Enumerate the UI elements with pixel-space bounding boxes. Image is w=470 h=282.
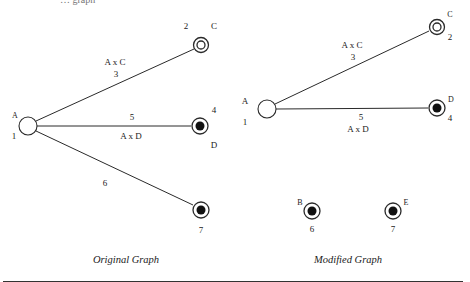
edge-a-d-modified-weight: 5 [359,112,364,122]
node-d-modified-number: 4 [448,113,453,123]
node-d-modified-label: D [448,95,454,105]
edge-a-d-original-weight: 5 [130,112,135,122]
edge-a-d-modified-label: A x D [347,124,369,134]
node-a-original-label: A [12,111,18,121]
node-b-modified [304,203,320,219]
node-d-modified [429,100,445,116]
edge-a-c-modified-weight: 3 [351,52,356,62]
original-graph-caption: Original Graph [93,254,159,265]
edge-a-c-original-label: A x C [104,57,125,67]
node-a-original [19,117,37,135]
node-a-modified-number: 1 [243,117,248,127]
node-c-modified [430,20,445,35]
node-7-original [193,202,209,218]
node-e-modified [385,203,401,219]
node-a-modified [258,100,276,118]
node-c-original-label: C [211,21,217,31]
edge-a-7-original-weight: 6 [103,178,108,188]
edge-a-d-modified [276,108,428,109]
edge-a-d-original-label: A x D [120,131,142,141]
node-c-modified-number: 2 [448,32,453,42]
node-e-modified-number: 7 [391,224,396,234]
node-7-original-number: 7 [199,225,204,235]
node-c-original [194,38,209,53]
node-b-modified-label: B [297,198,302,208]
node-e-modified-label: E [404,198,409,208]
edge-a-c-modified-label: A x C [341,40,362,50]
edge-a-7-original [36,131,193,205]
edge-a-c-original-weight: 3 [114,69,119,79]
graph-canvas [0,0,470,282]
node-c-modified-label: C [447,10,452,20]
node-d-original-number: 4 [212,105,217,115]
modified-graph-caption: Modified Graph [314,254,382,265]
graph-figure: … graph [0,0,470,282]
node-d-original [192,118,208,134]
node-b-modified-number: 6 [310,224,315,234]
node-c-original-number: 2 [184,21,189,31]
node-a-modified-label: A [242,96,249,106]
node-a-original-number: 1 [12,131,17,141]
node-d-original-label: D [211,140,218,150]
